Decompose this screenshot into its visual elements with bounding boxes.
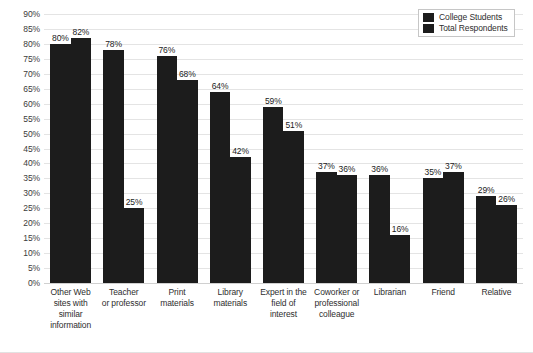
y-axis-tick-label: 70% <box>0 70 40 79</box>
x-axis-category-line: Librarian <box>360 287 419 298</box>
legend-item[interactable]: Total Respondents <box>423 24 508 33</box>
legend-swatch-icon <box>423 13 434 22</box>
bar-value-label: 26% <box>495 195 519 204</box>
legend-label: College Students <box>439 13 502 22</box>
x-axis-category-label: Expert in thefield ofinterest <box>254 287 313 320</box>
y-axis-tick-label: 90% <box>0 10 40 19</box>
y-axis-tick-label: 15% <box>0 234 40 243</box>
y-axis-tick-label: 0% <box>0 279 40 288</box>
bars-layer: 80%82%78%25%76%68%64%42%59%51%37%36%36%1… <box>44 14 523 283</box>
x-axis: Other Websites withsimilarinformationTea… <box>44 287 523 349</box>
bar-value-label: 51% <box>282 121 306 130</box>
bar <box>496 205 517 283</box>
axis-baseline <box>44 283 523 284</box>
y-axis-tick-label: 85% <box>0 25 40 34</box>
bar-value-label: 36% <box>368 165 392 174</box>
bar-value-label: 25% <box>122 198 146 207</box>
x-axis-category-line: professional <box>307 298 366 309</box>
x-axis-category-line: Print <box>147 287 206 298</box>
x-axis-category-label: Relative <box>467 287 526 298</box>
x-axis-category-line: information <box>41 320 100 331</box>
y-axis-tick-label: 20% <box>0 219 40 228</box>
bar <box>157 56 178 283</box>
x-axis-category-line: Other Web <box>41 287 100 298</box>
y-axis-tick-label: 65% <box>0 84 40 93</box>
bar-value-label: 68% <box>176 70 200 79</box>
bar <box>263 107 284 283</box>
y-axis-tick-label: 35% <box>0 174 40 183</box>
x-axis-category-line: Friend <box>414 287 473 298</box>
bar <box>443 172 464 283</box>
x-axis-category-line: or professor <box>94 298 153 309</box>
bar <box>124 208 145 283</box>
y-axis-tick-label: 45% <box>0 144 40 153</box>
x-axis-category-label: Librarian <box>360 287 419 298</box>
bar <box>71 38 92 283</box>
y-axis-tick-label: 80% <box>0 40 40 49</box>
legend-label: Total Respondents <box>439 24 508 33</box>
x-axis-category-line: field of <box>254 298 313 309</box>
x-axis-category-line: sites with <box>41 298 100 309</box>
y-axis-tick-label: 5% <box>0 264 40 273</box>
x-axis-category-label: Printmaterials <box>147 287 206 309</box>
bar <box>390 235 411 283</box>
legend-item[interactable]: College Students <box>423 13 508 22</box>
bar <box>103 50 124 283</box>
bar-group: 35%37% <box>417 14 470 283</box>
x-axis-category-line: materials <box>201 298 260 309</box>
bar <box>476 196 497 283</box>
x-axis-category-line: similar <box>41 309 100 320</box>
x-axis-category-line: Expert in the <box>254 287 313 298</box>
bar-group: 29%26% <box>470 14 523 283</box>
bar-group: 59%51% <box>257 14 310 283</box>
bar-group: 64%42% <box>204 14 257 283</box>
bar <box>369 175 390 283</box>
bar <box>210 92 231 283</box>
bar-value-label: 64% <box>208 82 232 91</box>
x-axis-category-line: Teacher <box>94 287 153 298</box>
x-axis-category-label: Friend <box>414 287 473 298</box>
bar-group: 76%68% <box>150 14 203 283</box>
bar-chart: 90%85%80%75%70%65%60%55%50%45%40%35%30%2… <box>0 0 533 353</box>
bar <box>337 175 358 283</box>
bar-group: 36%16% <box>363 14 416 283</box>
y-axis-tick-label: 10% <box>0 249 40 258</box>
x-axis-category-line: Relative <box>467 287 526 298</box>
y-axis: 90%85%80%75%70%65%60%55%50%45%40%35%30%2… <box>0 14 40 283</box>
bar-value-label: 59% <box>261 97 285 106</box>
x-axis-category-line: interest <box>254 309 313 320</box>
y-axis-tick-label: 25% <box>0 204 40 213</box>
x-axis-category-label: Teacheror professor <box>94 287 153 309</box>
chart-legend: College StudentsTotal Respondents <box>418 9 515 37</box>
bar-value-label: 42% <box>229 147 253 156</box>
y-axis-tick-label: 75% <box>0 55 40 64</box>
bar <box>283 131 304 283</box>
bar <box>230 157 251 283</box>
bar <box>423 178 444 283</box>
y-axis-tick-label: 40% <box>0 159 40 168</box>
bar-value-label: 76% <box>155 46 179 55</box>
y-axis-tick-label: 30% <box>0 189 40 198</box>
x-axis-category-line: materials <box>147 298 206 309</box>
y-axis-tick-label: 55% <box>0 114 40 123</box>
x-axis-category-label: Librarymaterials <box>201 287 260 309</box>
bar-group: 37%36% <box>310 14 363 283</box>
bar-value-label: 29% <box>474 186 498 195</box>
x-axis-category-line: Library <box>201 287 260 298</box>
x-axis-category-line: Coworker or <box>307 287 366 298</box>
y-axis-tick-label: 50% <box>0 129 40 138</box>
bar <box>177 80 198 283</box>
bar-value-label: 37% <box>442 162 466 171</box>
bar <box>316 172 337 283</box>
bar-group: 78%25% <box>97 14 150 283</box>
bar-value-label: 82% <box>69 28 93 37</box>
x-axis-category-label: Other Websites withsimilarinformation <box>41 287 100 331</box>
bar <box>50 44 71 283</box>
legend-swatch-icon <box>423 24 434 33</box>
y-axis-tick-label: 60% <box>0 99 40 108</box>
bar-value-label: 36% <box>335 165 359 174</box>
x-axis-category-line: colleague <box>307 309 366 320</box>
x-axis-category-label: Coworker orprofessionalcolleague <box>307 287 366 320</box>
bar-value-label: 78% <box>102 40 126 49</box>
bar-value-label: 16% <box>388 225 412 234</box>
